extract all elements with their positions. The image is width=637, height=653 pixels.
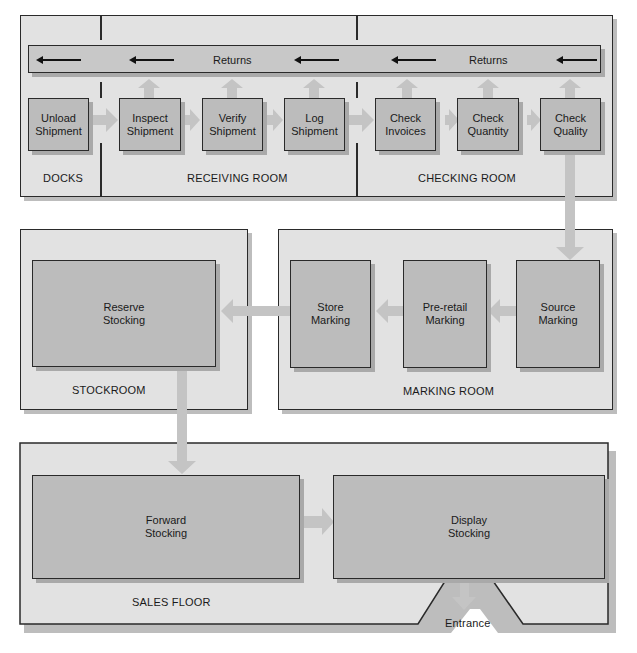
room-label-stockroom: STOCKROOM xyxy=(72,384,146,396)
step-forward-stocking: Forward Stocking xyxy=(32,475,300,579)
step-check-invoices: Check Invoices xyxy=(375,98,436,151)
step-source-marking: Source Marking xyxy=(516,260,600,368)
step-unload-shipment: Unload Shipment xyxy=(28,98,89,151)
step-log-shipment: Log Shipment xyxy=(284,98,345,151)
step-check-quality: Check Quality xyxy=(540,98,601,151)
room-label-docks: DOCKS xyxy=(43,172,83,184)
step-verify-shipment: Verify Shipment xyxy=(202,98,263,151)
step-preretail-marking: Pre-retail Marking xyxy=(403,260,487,368)
room-label-sales-floor: SALES FLOOR xyxy=(132,596,211,608)
step-reserve-stocking: Reserve Stocking xyxy=(32,260,216,367)
room-label-marking: MARKING ROOM xyxy=(403,385,494,397)
entrance-label: Entrance xyxy=(445,617,491,629)
step-store-marking: Store Marking xyxy=(290,260,371,368)
room-label-checking: CHECKING ROOM xyxy=(418,172,516,184)
step-check-quantity: Check Quantity xyxy=(457,98,519,151)
step-inspect-shipment: Inspect Shipment xyxy=(119,98,181,151)
step-display-stocking: Display Stocking xyxy=(333,475,605,579)
room-label-receiving: RECEIVING ROOM xyxy=(187,172,288,184)
